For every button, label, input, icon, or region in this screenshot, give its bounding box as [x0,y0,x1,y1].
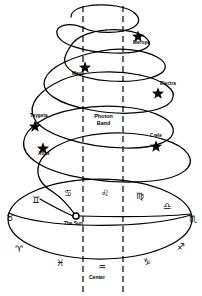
ecliptic-front-arc [9,213,191,225]
star-label-taygeta: Taygeta [30,114,48,119]
zodiac-symbol-aries: ♈ [15,245,23,254]
center-label: Center [89,275,105,280]
spiral-coil-4 [44,51,173,113]
sun-right-line [80,214,191,217]
sun-label: The Sun [64,222,83,227]
zodiac-symbol-capricorn: ♑ [143,258,151,267]
zodiac-symbol-scorpio: ♏ [189,215,197,224]
photon-band-label-line1: Photon [94,113,113,119]
zodiac-symbol-libra: ♎ [163,202,171,211]
sun-radius-line [40,199,73,216]
star-label-atlas: Atlas [38,152,50,157]
zodiac-symbol-sagittarius: ♐ [177,243,185,252]
star-label-merope: Merope [133,41,150,46]
photon-band-label: Photon Band [88,113,119,128]
star-label-maya: Maya [72,72,84,77]
spiral-diagram-svg [0,0,202,296]
photon-band-label-line2: Band [97,120,110,126]
zodiac-symbol-aquarius: ♒ [98,263,106,272]
zodiac-symbol-leo: ♌ [101,189,109,198]
zodiac-symbol-virgo: ♍ [136,192,144,201]
zodiac-symbol-gemini: ♊ [32,196,40,205]
spiral-tail-to-sun [38,133,124,216]
spiral-coil-1 [71,5,139,32]
zodiac-ellipse [8,179,192,259]
zodiac-symbol-taurus: ♉ [6,214,14,223]
sun-marker [73,213,79,219]
star-label-electra: Electra [160,82,176,87]
star-marker-coele [150,140,162,152]
zodiac-symbol-pisces: ♓ [56,259,64,268]
zodiac-symbol-cancer: ♋ [64,189,72,198]
diagram-canvas: Merope Maya Electra Taygeta Cœle Atlas P… [0,0,202,296]
star-label-coele: Cœle [150,134,162,139]
star-marker-electra [152,87,164,99]
